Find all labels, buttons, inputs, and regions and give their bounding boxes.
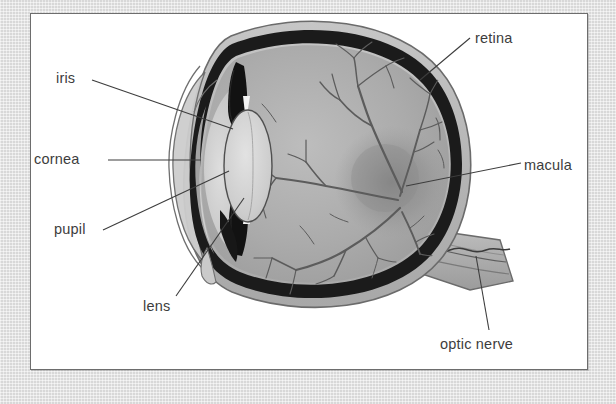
label-cornea: cornea (34, 151, 80, 167)
label-lens: lens (143, 298, 170, 314)
eye-anatomy-diagram (0, 0, 616, 404)
label-retina: retina (475, 30, 512, 46)
label-iris: iris (56, 70, 75, 86)
label-macula: macula (524, 157, 572, 173)
label-pupil: pupil (54, 221, 86, 237)
lens-shape (224, 110, 272, 222)
label-optic-nerve: optic nerve (440, 336, 513, 352)
